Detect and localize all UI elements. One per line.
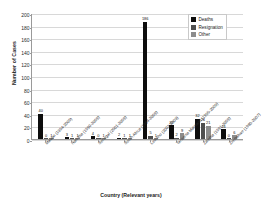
bar-value-label: 0 (45, 134, 47, 138)
y-axis-tick-label: 200 (21, 12, 29, 18)
x-axis-tick: Zimbabwe (1980-2007) (216, 141, 242, 189)
y-axis-title: Number of Cases (11, 17, 17, 109)
y-axis-tick-label: 80 (24, 88, 30, 94)
bar: 40 (38, 114, 43, 139)
bar-value-label: 0 (97, 134, 99, 138)
bar-value-label: 0 (228, 134, 230, 138)
y-axis-tick-label: 100 (21, 75, 29, 81)
bar: 26 (201, 123, 206, 139)
x-axis-tick: South Africa (1994-2009) (111, 141, 137, 189)
y-axis-tick-label: 120 (21, 62, 29, 68)
bar: 16 (221, 129, 226, 139)
bar-value-label: 186 (142, 17, 149, 21)
bar-value-label: 1 (123, 134, 125, 138)
bar-value-label: 21 (206, 121, 210, 125)
x-axis-title: Country (Relevant years) (0, 192, 262, 198)
legend-swatch-icon (191, 25, 196, 30)
legend-label: Other (199, 32, 211, 37)
x-axis-tick: Zambia (1991-2009) (190, 141, 216, 189)
legend-swatch-icon (191, 32, 196, 37)
y-axis-tick-label: 20 (24, 125, 30, 131)
bar-value-label: 2 (118, 133, 120, 137)
x-axis-tick-labels: Malawi (1994-2009)Namibia (1990-2009)Sen… (31, 141, 243, 189)
x-axis-tick: Malawi (1994-2009) (32, 141, 58, 189)
y-axis-tick-label: 180 (21, 25, 29, 31)
legend-swatch-icon (191, 17, 196, 22)
bar-group: 4001 (33, 14, 59, 139)
x-axis-tick: Senegal (2001-2009) (85, 141, 111, 189)
bar: 3 (65, 137, 70, 139)
legend-item[interactable]: Other (191, 32, 223, 37)
x-axis-tick: Lesotho (2002-2009) (137, 141, 163, 189)
bar-value-label: 4 (92, 132, 94, 136)
y-axis-tick-label: 160 (21, 37, 29, 43)
legend-label: Deaths (199, 17, 214, 22)
y-axis-tick-label: 40 (24, 113, 30, 119)
x-axis-tick: Namibia (1990-2009) (58, 141, 84, 189)
bar: 4 (91, 136, 96, 139)
bar-value-label: 2 (176, 133, 178, 137)
y-axis-tick-label: 60 (24, 100, 30, 106)
legend-item[interactable]: Resignation (191, 25, 223, 30)
bar-chart: Number of Cases 020406080100120140160180… (0, 0, 262, 212)
chart-legend: DeathsResignationOther (188, 14, 227, 40)
x-axis-tick: Tanzania Mainland (1995-2009) (163, 141, 189, 189)
legend-label: Resignation (199, 25, 223, 30)
legend-item[interactable]: Deaths (191, 17, 223, 22)
bar-value-label: 3 (66, 133, 68, 137)
bar-value-label: 5 (149, 131, 151, 135)
y-axis-tick-label: 140 (21, 50, 29, 56)
bar: 2 (117, 138, 122, 139)
bar-value-label: 40 (39, 109, 43, 113)
